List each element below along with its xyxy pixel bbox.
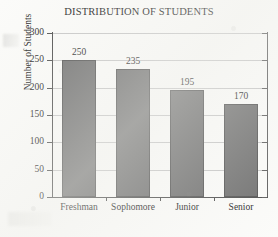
bar-senior <box>224 104 258 197</box>
y-axis-tick <box>47 33 52 34</box>
bar-junior <box>170 90 204 197</box>
bar-freshman <box>62 60 96 197</box>
y-axis-tick-label: 150 <box>4 109 44 119</box>
bar-value-label: 195 <box>162 77 212 87</box>
right-axis-tick <box>262 88 267 89</box>
x-axis-tick <box>106 197 107 201</box>
right-axis-tick <box>262 197 267 198</box>
y-axis-tick-label: 300 <box>4 27 44 37</box>
right-axis-tick <box>262 115 267 116</box>
scan-artifact-bottom-left <box>8 212 52 226</box>
y-axis-tick-label: 250 <box>4 54 44 64</box>
y-axis-tick <box>47 142 52 143</box>
x-axis-category-label: Senior <box>203 202 278 212</box>
right-axis-tick <box>262 170 267 171</box>
y-axis-tick <box>47 60 52 61</box>
right-axis-tick <box>262 142 267 143</box>
y-axis-tick <box>47 170 52 171</box>
x-axis-tick <box>214 197 215 201</box>
y-axis-line <box>52 32 53 198</box>
bar-sophomore <box>116 69 150 197</box>
bar-value-label: 235 <box>108 56 158 66</box>
bar-value-label: 170 <box>216 91 266 101</box>
y-axis-tick-label: 200 <box>4 82 44 92</box>
y-axis-tick <box>47 115 52 116</box>
plot-area <box>52 33 268 197</box>
grid-line <box>52 33 268 34</box>
chart-title: DISTRIBUTION OF STUDENTS <box>0 6 278 17</box>
y-axis-tick <box>47 197 52 198</box>
bar-value-label: 250 <box>54 47 104 57</box>
right-axis-tick <box>262 60 267 61</box>
right-axis-line <box>267 32 268 198</box>
y-axis-tick-label: 0 <box>4 191 44 201</box>
right-axis-tick <box>262 33 267 34</box>
x-axis-tick <box>160 197 161 201</box>
y-axis-tick <box>47 88 52 89</box>
y-axis-tick-label: 50 <box>4 164 44 174</box>
y-axis-tick-label: 100 <box>4 136 44 146</box>
